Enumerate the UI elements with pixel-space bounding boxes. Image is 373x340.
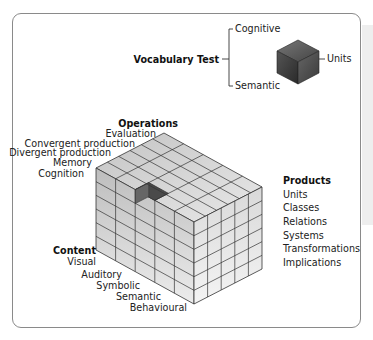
vocabulary-content-label: Semantic bbox=[235, 80, 280, 91]
product-label: Implications bbox=[283, 257, 341, 268]
content-title: Content bbox=[53, 245, 96, 256]
content-label: Behavioural bbox=[130, 302, 187, 313]
products-axis-labels: Products Units Classes Relations Systems… bbox=[282, 175, 360, 268]
product-label: Systems bbox=[283, 230, 324, 241]
operation-label: Cognition bbox=[38, 168, 84, 179]
content-label: Semantic bbox=[116, 291, 161, 302]
product-label: Transformations bbox=[282, 243, 360, 254]
vocabulary-example: Vocabulary Test Cognitive Semantic Units bbox=[133, 23, 351, 91]
content-label: Visual bbox=[67, 256, 96, 267]
products-title: Products bbox=[283, 175, 331, 186]
bracket-connector bbox=[222, 29, 233, 86]
content-label: Symbolic bbox=[96, 280, 140, 291]
small-cube-icon bbox=[277, 40, 319, 84]
structure-of-intellect-diagram: Vocabulary Test Cognitive Semantic Units… bbox=[0, 0, 373, 340]
product-label: Relations bbox=[283, 216, 327, 227]
product-label: Classes bbox=[283, 202, 319, 213]
content-label: Auditory bbox=[81, 269, 122, 280]
vocabulary-test-label: Vocabulary Test bbox=[133, 54, 219, 65]
vocabulary-product-label: Units bbox=[327, 53, 352, 64]
product-label: Units bbox=[283, 189, 308, 200]
operation-label: Memory bbox=[53, 157, 92, 168]
vocabulary-operation-label: Cognitive bbox=[235, 23, 281, 34]
